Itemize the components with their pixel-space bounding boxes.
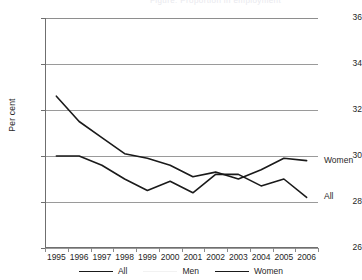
legend-item-women[interactable]: Women	[215, 266, 283, 276]
y-tick-mark	[41, 110, 46, 111]
legend-swatch-men	[143, 271, 177, 272]
y-tick-label: 26	[324, 242, 362, 252]
legend-swatch-all	[79, 271, 113, 272]
legend-item-men[interactable]: Men	[143, 266, 199, 276]
chart-container: Figure: Proportion in employment Per cen…	[0, 0, 362, 280]
legend-label-men: Men	[182, 266, 199, 276]
x-tick-label: 2006	[292, 252, 322, 262]
y-tick-mark	[41, 156, 46, 157]
series-line-all	[56, 156, 306, 197]
legend-swatch-women	[215, 271, 249, 272]
y-tick-label: 32	[324, 104, 362, 114]
y-tick-label: 34	[324, 58, 362, 68]
clipped-header-text: Figure: Proportion in employment	[0, 0, 362, 9]
y-tick-label: 28	[324, 196, 362, 206]
y-tick-mark	[41, 202, 46, 203]
y-tick-label: 30	[324, 150, 362, 160]
y-tick-mark	[41, 18, 46, 19]
y-axis-title: Per cent	[7, 85, 17, 145]
series-line-women	[56, 96, 306, 179]
data-series-layer	[45, 18, 318, 248]
y-tick-mark	[41, 64, 46, 65]
legend-label-women: Women	[254, 266, 283, 276]
y-tick-label: 36	[324, 12, 362, 22]
chart-legend: AllMenWomen	[0, 264, 362, 278]
legend-label-all: All	[118, 266, 127, 276]
legend-item-all[interactable]: All	[79, 266, 127, 276]
